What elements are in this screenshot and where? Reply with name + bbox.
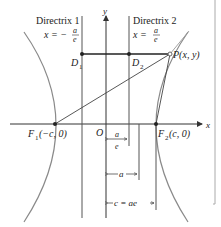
directrix-1-num: a	[73, 26, 77, 35]
directrix-2-den: e	[154, 35, 158, 44]
point-f2	[154, 122, 158, 126]
dim-a-over-e-num: a	[115, 130, 119, 139]
x-axis-label: x	[205, 120, 210, 130]
d2-label: D	[131, 57, 140, 68]
d1-subscript: 1	[79, 63, 83, 71]
directrix-2-title: Directrix 2	[133, 15, 177, 26]
dim-c-label: c = ae	[114, 198, 137, 208]
p-to-f2-segment	[156, 54, 170, 124]
d1-label: D	[70, 57, 79, 68]
point-d1	[80, 52, 84, 56]
f1-label: F	[27, 128, 35, 139]
hyperbola-right-branch	[156, 32, 188, 222]
directrix-1-equation: x = −	[43, 29, 67, 40]
directrix-2-num: a	[154, 26, 158, 35]
directrix-2-equation: x =	[132, 29, 147, 40]
frame-border	[213, 0, 215, 204]
f2-coords: (c, 0)	[169, 128, 191, 140]
hyperbola-diagram: Directrix 1 x = − a e Directrix 2 x = a …	[0, 0, 221, 227]
origin-label: O	[96, 127, 103, 138]
d2-subscript: 2	[140, 63, 144, 71]
point-d2	[127, 52, 131, 56]
point-p	[168, 52, 172, 56]
hyperbola-left-branch	[24, 32, 56, 222]
p-label: P(x, y)	[172, 49, 200, 61]
y-axis-label: y	[102, 6, 107, 16]
dim-a-over-e-den: e	[115, 142, 119, 151]
point-f1	[53, 122, 57, 126]
f1-coords: (−c, 0)	[39, 128, 68, 140]
f2-label: F	[157, 128, 165, 139]
directrix-1-title: Directrix 1	[36, 15, 80, 26]
dim-a-label: a	[119, 169, 124, 179]
directrix-1-den: e	[73, 35, 77, 44]
